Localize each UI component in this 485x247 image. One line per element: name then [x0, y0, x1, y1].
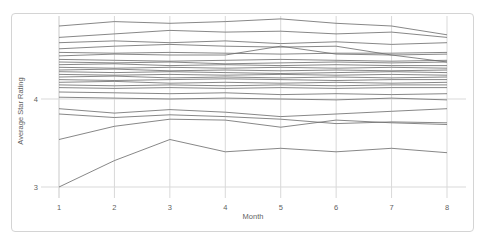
- series-line: [59, 59, 447, 61]
- gridlines: [41, 16, 466, 198]
- line-chart: 1234567834 Month Average Star Rating: [1, 1, 485, 247]
- y-tick-label: 3: [34, 183, 38, 192]
- series-line: [59, 74, 447, 75]
- series-line: [59, 30, 447, 37]
- x-axis-title: Month: [243, 212, 264, 221]
- series-lines: [59, 19, 447, 187]
- series-line: [59, 81, 447, 83]
- tick-labels: 1234567834: [34, 95, 449, 213]
- screenshot-stage: 1234567834 Month Average Star Rating: [0, 0, 485, 247]
- x-tick-label: 8: [445, 203, 449, 212]
- series-line: [59, 119, 447, 139]
- x-tick-label: 5: [279, 203, 283, 212]
- x-tick-label: 6: [334, 203, 338, 212]
- y-tick-label: 4: [34, 95, 38, 104]
- series-line: [59, 88, 447, 89]
- x-tick-label: 7: [389, 203, 393, 212]
- series-line: [59, 114, 447, 124]
- series-line: [59, 85, 447, 86]
- series-line: [59, 140, 447, 188]
- series-line: [59, 92, 447, 95]
- chart-card: 1234567834 Month Average Star Rating: [11, 13, 474, 232]
- series-line: [59, 72, 447, 74]
- series-line: [59, 109, 447, 117]
- series-line: [59, 79, 447, 81]
- series-line: [59, 64, 447, 66]
- series-line: [59, 76, 447, 78]
- x-tick-label: 4: [223, 203, 227, 212]
- y-axis-title: Average Star Rating: [16, 77, 25, 144]
- x-tick-label: 3: [168, 203, 172, 212]
- series-line: [59, 67, 447, 68]
- series-line: [59, 69, 447, 71]
- x-tick-label: 2: [112, 203, 116, 212]
- series-line: [59, 41, 447, 45]
- x-tick-label: 1: [57, 203, 61, 212]
